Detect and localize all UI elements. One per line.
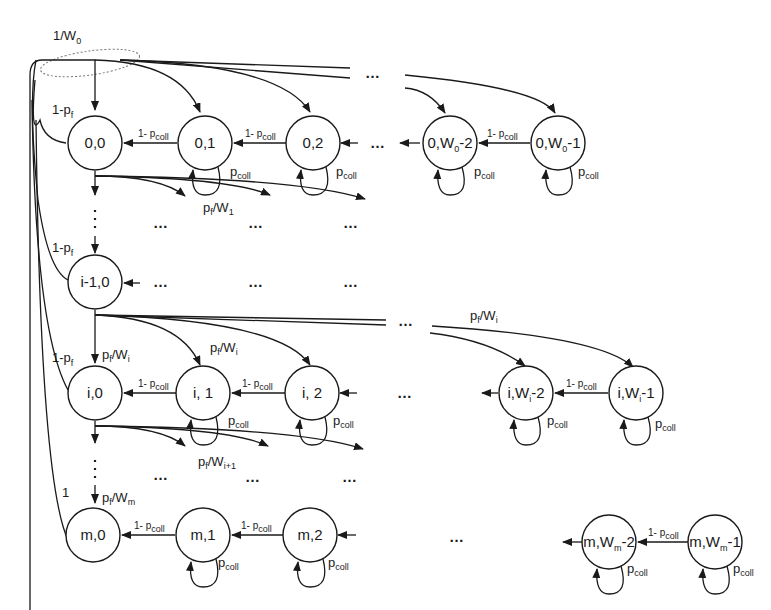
svg-text:1-pf: 1-pf [52,240,74,258]
reset-edges [30,60,68,610]
row-stage-m: 1 pf/Wm m,0 1- pcoll m,1 pcoll 1- pcoll … [62,485,754,594]
svg-text:1: 1 [62,485,69,500]
svg-text:pcoll: pcoll [474,164,495,181]
svg-text:…: … [245,468,261,485]
svg-text:1-pf: 1-pf [52,350,74,368]
svg-text:…: … [370,134,386,151]
svg-text:1- pcoll: 1- pcoll [134,520,165,534]
svg-text:…: … [153,466,169,483]
svg-text:m,0: m,0 [80,526,105,543]
svg-text:…: … [343,214,359,231]
svg-text:1- pcoll: 1- pcoll [138,378,169,392]
svg-text:…: … [153,214,169,231]
row-stage-i: 1-pf i,0 1- pcoll i, 1 pcoll 1- pcoll i,… [52,350,676,445]
svg-text:pcoll: pcoll [336,164,357,181]
row-stage-0: 1-pf 0,0 1- pcoll 0,1 pcoll 1- pcoll 0,2… [52,102,599,195]
svg-text:…: … [398,312,414,329]
stage-i-failure-edges: pf/Wi+1 [95,421,363,471]
down-label-i+1: pf/Wi+1 [198,454,236,471]
svg-text:pcoll: pcoll [627,561,648,578]
svg-text:pcoll: pcoll [230,164,251,181]
ellipsis-stage0-top: … [365,64,381,81]
svg-text:i, 2: i, 2 [302,384,322,401]
row-stage-i-1: 1-pf i-1,0 … … … [52,240,359,309]
svg-text:…: … [449,528,465,545]
svg-text:0,2: 0,2 [303,134,324,151]
svg-text:…: … [342,468,358,485]
svg-text:pcoll: pcoll [328,555,349,572]
svg-text:…: … [343,273,359,290]
svg-text:1- pcoll: 1- pcoll [566,378,597,392]
svg-text:1- pcoll: 1- pcoll [138,128,169,142]
svg-text:pcoll: pcoll [733,561,754,578]
svg-text:pcoll: pcoll [655,416,676,433]
svg-text:1/W0: 1/W0 [53,28,81,46]
initial-probability-label: 1/W0 [53,28,81,46]
entry-label-i: pf/Wi [102,347,130,364]
svg-text:0,1: 0,1 [195,134,216,151]
stage-0-entry-edges [42,60,555,113]
svg-text:pcoll: pcoll [547,413,568,430]
svg-text:i, 1: i, 1 [193,384,213,401]
svg-text:1- pcoll: 1- pcoll [241,520,272,534]
svg-text:m,2: m,2 [297,526,322,543]
entry-label-m: pf/Wm [102,490,135,507]
svg-text:…: … [248,214,264,231]
reset-label-0: 1-pf [52,102,74,120]
svg-text:0,0: 0,0 [85,134,106,151]
stage-i-entry-edges: … pf/Wi pf/Wi pf/Wi [95,308,633,367]
svg-text:1- pcoll: 1- pcoll [242,378,273,392]
svg-text:1- pcoll: 1- pcoll [648,527,679,541]
svg-text:pcoll: pcoll [333,413,354,430]
svg-text:…: … [153,273,169,290]
entry-label-i-right: pf/Wi [470,308,498,325]
svg-text:i-1,0: i-1,0 [80,273,109,290]
entry-label-i-mid: pf/Wi [210,340,238,357]
markov-chain-diagram: 1/W0 … 1-pf 0,0 1- pcoll 0,1 pcoll 1- pc… [0,0,771,610]
down-label-1: pf/W1 [203,200,234,217]
svg-text:1- pcoll: 1- pcoll [487,128,518,142]
svg-text:m,1: m,1 [190,526,215,543]
svg-text:…: … [248,273,264,290]
svg-text:…: … [397,384,413,401]
svg-text:pcoll: pcoll [228,413,249,430]
svg-text:1- pcoll: 1- pcoll [245,128,276,142]
svg-text:pcoll: pcoll [578,164,599,181]
svg-text:pcoll: pcoll [218,555,239,572]
svg-text:i,0: i,0 [87,384,103,401]
